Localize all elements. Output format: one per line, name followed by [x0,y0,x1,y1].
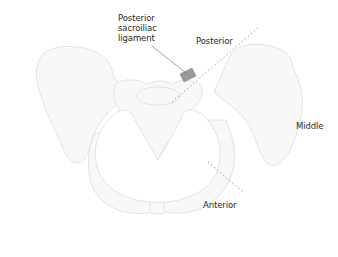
ligament-leader-line [152,46,186,73]
ligament-label-line-1: Posterior [118,13,157,23]
posterior-label: Posterior [196,36,233,46]
ligament-label-line-3: ligament [118,33,157,43]
anterior-label: Anterior [203,200,237,210]
posterior-sacroiliac-ligament-label: Posterior sacroiliac ligament [118,13,157,43]
sacral-promontory [136,87,180,105]
pelvis-illustration [36,44,302,214]
middle-label: Middle [296,121,323,131]
pelvis-diagram [0,0,338,257]
ligament-label-line-2: sacroiliac [118,23,157,33]
